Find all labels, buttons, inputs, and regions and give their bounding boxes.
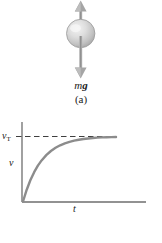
gravity-label-g: g bbox=[82, 79, 88, 91]
vt-subscript: T bbox=[6, 135, 10, 143]
panel-a-free-body-diagram: mg (a) bbox=[0, 0, 162, 110]
y-axis-label: v bbox=[9, 158, 13, 168]
physics-figure-terminal-velocity: mg (a) vT v t (b) bbox=[0, 0, 162, 243]
velocity-time-chart bbox=[0, 110, 162, 243]
x-axis-label: t bbox=[73, 204, 76, 214]
gravity-force-label: mg bbox=[0, 79, 162, 91]
panel-b-velocity-time-graph: vT v t (b) bbox=[0, 110, 162, 243]
panel-a-caption: (a) bbox=[0, 93, 162, 105]
y-axis-terminal-velocity-label: vT bbox=[2, 131, 11, 144]
velocity-curve bbox=[23, 137, 116, 202]
